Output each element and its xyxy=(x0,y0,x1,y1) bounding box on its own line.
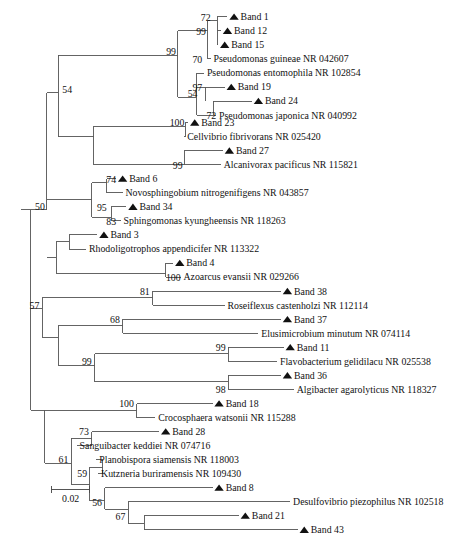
taxon-label: Band 36 xyxy=(294,370,327,381)
taxon-label: Band 19 xyxy=(238,81,271,92)
taxon-label: Novosphingobium nitrogenifigens NR 04385… xyxy=(125,187,308,198)
bootstrap-value: 99 xyxy=(173,160,183,171)
phylogenetic-tree-figure: Band 1Band 12Band 15Pseudomonas guineae … xyxy=(0,0,476,543)
band-marker-triangle-icon xyxy=(227,84,236,90)
taxon-label: Elusimicrobium minutum NR 074114 xyxy=(261,328,410,339)
taxon-label: Band 34 xyxy=(139,201,172,212)
taxon-label: Band 27 xyxy=(236,145,269,156)
taxon-label: Band 4 xyxy=(186,257,214,268)
bootstrap-value: 61 xyxy=(59,454,69,465)
band-marker-triangle-icon xyxy=(241,512,250,518)
taxon-label: Band 37 xyxy=(294,314,327,325)
bootstrap-value: 54 xyxy=(62,84,72,95)
band-marker-triangle-icon xyxy=(190,119,199,125)
taxon-label: Pseudomonas entomophila NR 102854 xyxy=(207,67,361,78)
scale-bar-label: 0.02 xyxy=(62,493,79,504)
band-marker-triangle-icon xyxy=(220,42,229,48)
band-marker-triangle-icon xyxy=(223,28,232,34)
taxon-label: Band 11 xyxy=(297,342,330,353)
bootstrap-value: 95 xyxy=(97,202,107,213)
bootstrap-value: 100 xyxy=(170,117,185,128)
bootstrap-value: 99 xyxy=(216,342,226,353)
taxon-label: Sanguibacter keddiei NR 074716 xyxy=(80,440,211,451)
taxon-label: Pseudomonas guineae NR 042607 xyxy=(213,53,348,64)
taxon-label: Rhodoligotrophos appendicifer NR 113322 xyxy=(89,243,259,254)
taxon-label: Band 38 xyxy=(294,286,327,297)
taxon-label: Band 8 xyxy=(226,482,254,493)
bootstrap-value: 68 xyxy=(110,314,120,325)
taxon-label: Band 21 xyxy=(252,510,285,521)
taxon-label: Desulfovibrio piezophilus NR 102518 xyxy=(293,496,443,507)
bootstrap-value: 72 xyxy=(201,12,211,23)
band-marker-triangle-icon xyxy=(254,98,263,104)
taxon-label: Planobispora siamensis NR 118003 xyxy=(99,454,239,465)
taxon-label: Band 43 xyxy=(311,524,344,535)
band-marker-triangle-icon xyxy=(175,260,184,266)
taxon-label: Crocosphaera watsonii NR 115288 xyxy=(158,412,296,423)
band-marker-triangle-icon xyxy=(229,13,238,19)
taxon-label: Algibacter agarolyticus NR 118327 xyxy=(297,384,437,395)
scale-bar: 0.02 xyxy=(51,486,89,504)
bootstrap-value: 67 xyxy=(116,511,126,522)
band-marker-triangle-icon xyxy=(283,288,292,294)
bootstrap-value: 98 xyxy=(216,384,226,395)
bootstrap-value: 99 xyxy=(166,46,176,57)
bootstrap-value: 100 xyxy=(166,272,181,283)
taxon-label: Sphingomonas kyungheensis NR 118263 xyxy=(124,215,286,226)
bootstrap-value: 59 xyxy=(77,468,87,479)
band-marker-triangle-icon xyxy=(161,428,170,434)
bootstrap-value: 83 xyxy=(106,216,116,227)
taxon-label: Roseiflexus castenholzi NR 112114 xyxy=(227,300,367,311)
taxon-label: Cellvibrio fibrivorans NR 025420 xyxy=(187,131,321,142)
bootstrap-value: 50 xyxy=(35,201,45,212)
bootstrap-value: 72 xyxy=(206,110,216,121)
taxon-label: Flavobacterium gelidilacu NR 025538 xyxy=(280,356,431,367)
band-marker-triangle-icon xyxy=(283,372,292,378)
taxon-label: Band 24 xyxy=(265,95,298,106)
taxon-label: Band 15 xyxy=(231,39,264,50)
taxon-label: Band 18 xyxy=(226,398,259,409)
band-marker-triangle-icon xyxy=(283,316,292,322)
taxon-label: Band 6 xyxy=(129,173,157,184)
taxon-label: Azoarcus evansii NR 029266 xyxy=(183,271,299,282)
taxon-label: Band 12 xyxy=(234,25,267,36)
bootstrap-value: 81 xyxy=(140,286,150,297)
band-marker-triangle-icon xyxy=(99,232,108,238)
band-marker-triangle-icon xyxy=(286,344,295,350)
band-marker-triangle-icon xyxy=(300,527,309,533)
bootstrap-value: 56 xyxy=(92,497,102,508)
band-marker-triangle-icon xyxy=(128,204,137,210)
taxon-label: Alcanivorax pacificus NR 115821 xyxy=(224,159,358,170)
band-marker-triangle-icon xyxy=(214,484,223,490)
bootstrap-value: 70 xyxy=(192,54,202,65)
band-marker-triangle-icon xyxy=(118,175,127,181)
taxon-label: Pseudomonas japonica NR 040992 xyxy=(219,110,357,121)
bootstrap-value: 54 xyxy=(188,88,198,99)
tree-canvas: Band 1Band 12Band 15Pseudomonas guineae … xyxy=(0,0,476,543)
bootstrap-value: 99 xyxy=(196,26,206,37)
taxon-label: Band 1 xyxy=(241,11,269,22)
taxon-label: Band 3 xyxy=(110,229,138,240)
taxon-label: Band 28 xyxy=(172,426,205,437)
bootstrap-value: 74 xyxy=(106,174,116,185)
band-marker-triangle-icon xyxy=(225,147,234,153)
bootstrap-value: 73 xyxy=(79,426,89,437)
bootstrap-value: 100 xyxy=(119,398,134,409)
band-marker-triangle-icon xyxy=(214,400,223,406)
bootstrap-value: 99 xyxy=(82,356,92,367)
taxon-label: Kutzneria buriramensis NR 109430 xyxy=(101,468,241,479)
bootstrap-value: 57 xyxy=(29,300,39,311)
